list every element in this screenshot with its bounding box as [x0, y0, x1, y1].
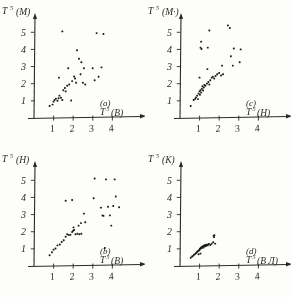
- panel-a-y-tick-label: 4: [21, 44, 26, 55]
- data-point: [221, 65, 223, 67]
- data-point: [227, 24, 229, 26]
- svg-text:(Н): (Н): [257, 108, 270, 119]
- svg-text:5: 5: [10, 153, 13, 159]
- panel-d-y-tick-label: 2: [167, 226, 172, 237]
- data-point: [71, 80, 73, 82]
- data-point: [63, 239, 65, 241]
- data-point: [78, 233, 80, 235]
- panel-c-caption: (c): [246, 98, 256, 108]
- data-point: [83, 67, 85, 69]
- data-point: [80, 222, 82, 224]
- data-point: [80, 61, 82, 63]
- data-point: [82, 82, 84, 84]
- data-point: [58, 77, 60, 79]
- panel-a-y-axis-label: T5(М): [2, 5, 30, 18]
- data-point: [215, 75, 217, 77]
- panel-a-x-tick-label: 3: [87, 122, 95, 134]
- data-point: [98, 76, 100, 78]
- panel-d-x-tick-label: 4: [254, 270, 261, 282]
- data-point: [201, 48, 203, 50]
- data-point: [206, 68, 208, 70]
- panel-b-x-tick-label: 1: [49, 270, 56, 282]
- data-point: [75, 82, 77, 84]
- svg-text:T: T: [100, 255, 106, 265]
- panel-c-data-points: [190, 24, 242, 106]
- panel-d-data-points: [190, 234, 216, 259]
- data-point: [103, 215, 105, 217]
- data-point: [104, 247, 106, 249]
- data-point: [65, 90, 67, 92]
- data-point: [73, 76, 75, 78]
- data-point: [195, 96, 197, 98]
- panel-a-y-tick-label: 2: [21, 78, 26, 89]
- data-point: [198, 253, 200, 255]
- panel-d-axes: [174, 161, 291, 267]
- panel-a-x-tick-label: 2: [68, 122, 75, 134]
- data-point: [55, 98, 57, 100]
- data-point: [83, 213, 85, 215]
- panel-a-y-tick-label: 1: [21, 95, 26, 106]
- data-point: [75, 233, 77, 235]
- data-point: [206, 83, 208, 85]
- data-point: [230, 55, 232, 57]
- data-point: [200, 253, 202, 255]
- panel-b-axes: [28, 161, 145, 267]
- data-point: [57, 244, 59, 246]
- panel-b-plot: 123451234T5(Н)T5(В)(b): [0, 148, 145, 297]
- data-point: [57, 100, 59, 102]
- panel-b-y-axis-ticks: 12345: [20, 175, 35, 255]
- data-point: [211, 243, 213, 245]
- panel-b-y-tick-label: 4: [21, 192, 26, 203]
- svg-text:T: T: [148, 6, 154, 16]
- panel-d-y-tick-label: 4: [167, 192, 172, 203]
- svg-text:5: 5: [156, 5, 159, 11]
- data-point: [203, 86, 205, 88]
- data-point: [65, 200, 67, 202]
- data-point: [53, 249, 55, 251]
- panel-d-y-tick-label: 1: [167, 243, 172, 254]
- data-point: [222, 73, 224, 75]
- svg-text:(М·): (М·): [162, 7, 179, 18]
- panel-d-x-tick-label: 1: [195, 270, 202, 282]
- data-point: [73, 226, 75, 228]
- data-point: [239, 61, 241, 63]
- data-point: [84, 84, 86, 86]
- data-point: [55, 248, 57, 250]
- svg-text:(В): (В): [111, 256, 123, 267]
- panel-a-caption: (a): [100, 98, 111, 108]
- panel-d-plot: 123451234T5(К)T5(В Л)(d): [146, 148, 291, 297]
- data-point: [58, 95, 60, 97]
- panel-c: 123451234T5(М·)T5(Н)(c): [146, 0, 291, 149]
- panel-b: 123451234T5(Н)T5(В)(b): [0, 148, 145, 297]
- data-point: [207, 47, 209, 49]
- panel-b-data-points: [49, 178, 120, 257]
- data-point: [201, 88, 203, 90]
- scatter-figure: 123451234T5(М)T5(В)(a)123451234T5(М·)T5(…: [0, 0, 291, 297]
- data-point: [80, 73, 82, 75]
- data-point: [200, 41, 202, 43]
- data-point: [213, 236, 215, 238]
- panel-d-caption: (d): [246, 246, 257, 256]
- panel-a-axes: [28, 13, 145, 119]
- data-point: [96, 32, 98, 34]
- data-point: [94, 79, 96, 81]
- panel-d-y-tick-label: 5: [167, 175, 172, 186]
- data-point: [70, 100, 72, 102]
- data-point: [200, 92, 202, 94]
- data-point: [109, 214, 111, 216]
- data-point: [216, 73, 218, 75]
- data-point: [214, 243, 216, 245]
- panel-c-y-tick-label: 5: [167, 27, 172, 38]
- panel-c-plot: 123451234T5(М·)T5(Н)(c): [146, 0, 291, 149]
- panel-a-x-tick-label: 1: [49, 122, 56, 134]
- data-point: [60, 97, 62, 99]
- panel-a: 123451234T5(М)T5(В)(a): [0, 0, 145, 149]
- data-point: [204, 85, 206, 87]
- svg-text:T: T: [148, 154, 154, 164]
- data-point: [71, 199, 73, 201]
- panel-c-x-tick-label: 1: [195, 122, 202, 134]
- data-point: [212, 76, 214, 78]
- data-point: [193, 99, 195, 101]
- data-point: [103, 33, 105, 35]
- panel-b-x-tick-label: 3: [87, 270, 95, 282]
